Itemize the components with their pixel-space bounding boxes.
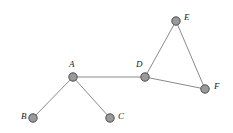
graph-node-a (69, 73, 77, 81)
graph-edge-a-c (73, 77, 110, 118)
graph-canvas (0, 0, 233, 133)
graph-node-label-f: F (214, 82, 220, 91)
graph-node-b (29, 114, 37, 122)
graph-diagram: ABCDEF (0, 0, 233, 133)
graph-node-c (106, 114, 114, 122)
graph-node-label-d: D (136, 60, 143, 69)
node-layer (29, 17, 209, 122)
graph-edge-d-e (145, 21, 176, 77)
edge-layer (33, 21, 205, 118)
graph-edge-e-f (176, 21, 205, 89)
graph-node-label-e: E (184, 13, 190, 22)
graph-node-label-c: C (118, 112, 124, 121)
graph-node-e (172, 17, 180, 25)
graph-edge-a-b (33, 77, 73, 118)
graph-node-label-b: B (21, 112, 27, 121)
graph-node-f (201, 85, 209, 93)
graph-node-d (141, 73, 149, 81)
graph-edge-d-f (145, 77, 205, 89)
graph-node-label-a: A (69, 60, 75, 69)
